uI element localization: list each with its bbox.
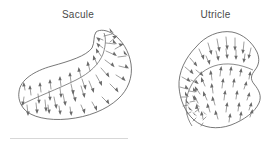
figure-root: Sacule Utricle	[0, 0, 275, 147]
saccule-panel	[19, 28, 132, 120]
caption-rule	[10, 138, 128, 139]
utricle-panel	[179, 32, 260, 128]
utricle-outline	[179, 32, 260, 128]
otolith-diagram-svg	[0, 0, 275, 147]
